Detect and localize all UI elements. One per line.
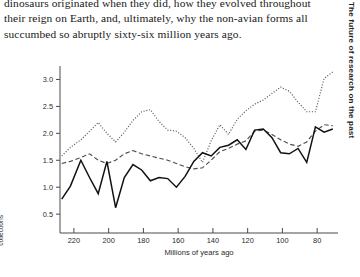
- y-tick-label: 1.5: [43, 156, 53, 165]
- x-axis-tick-labels: 22020018016014012010080: [68, 236, 322, 245]
- x-tick-label: 220: [68, 236, 80, 245]
- y-tick-label: 0.5: [43, 210, 53, 219]
- series-line-2: [62, 127, 333, 208]
- x-tick-label: 160: [172, 236, 184, 245]
- figure: Three curves comparing: dinosaur taxic d…: [0, 58, 360, 277]
- series-line-0: [62, 72, 333, 162]
- x-tick-label: 100: [276, 236, 288, 245]
- y-tick-label: 3.0: [43, 75, 53, 84]
- running-head-label: The future of research on the past: [347, 2, 356, 15]
- y-tick-label: 2.0: [43, 129, 53, 138]
- body-text-block: dinosaurs originated when they did, how …: [4, 0, 322, 42]
- chart-series-group: [62, 72, 333, 208]
- x-tick-label: 200: [102, 236, 114, 245]
- x-tick-label: 80: [313, 236, 321, 245]
- chart-tick-marks: [56, 79, 317, 233]
- x-tick-label: 140: [207, 236, 219, 245]
- body-paragraph: dinosaurs originated when they did, how …: [4, 0, 322, 42]
- series-line-1: [62, 125, 333, 169]
- x-tick-label: 120: [241, 236, 253, 245]
- x-axis-title: Millions of years ago: [164, 248, 233, 257]
- y-tick-label: 2.5: [43, 102, 53, 111]
- line-chart: 0.51.01.52.02.53.0 220200180160140120100…: [0, 58, 360, 277]
- y-tick-label: 1.0: [43, 183, 53, 192]
- x-tick-label: 180: [137, 236, 149, 245]
- y-axis-tick-labels: 0.51.01.52.02.53.0: [43, 75, 53, 219]
